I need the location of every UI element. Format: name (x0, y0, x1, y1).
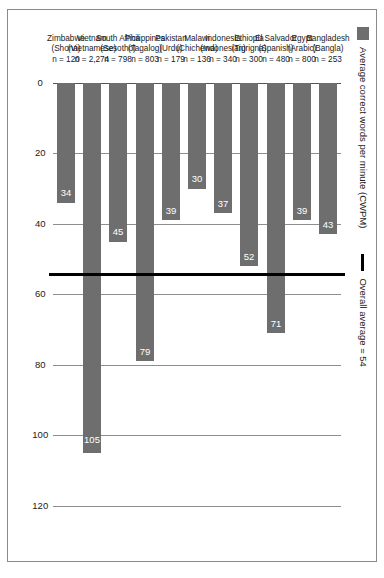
category-language: (Shona) (47, 44, 85, 54)
average-line-swatch-icon (362, 254, 365, 271)
bar-rect[interactable]: 71 (267, 83, 285, 333)
bar-row[interactable]: 45 (109, 83, 127, 541)
bar-series-swatch-icon (357, 27, 369, 40)
category-sample-size: n = 120 (47, 54, 85, 64)
bar-value-label: 43 (323, 219, 334, 229)
bar-value-label: 30 (192, 174, 203, 184)
plot-area: 43397152373039794510534 (53, 83, 341, 541)
tick-label-120: 120 (32, 501, 48, 511)
bar-rect[interactable]: 39 (162, 83, 180, 220)
bar-rect[interactable]: 37 (214, 83, 232, 213)
bar-rect[interactable]: 43 (319, 83, 337, 234)
legend-entry-bar-series: Average correct words per minute (CWPM) (357, 27, 369, 228)
chart-canvas: Average correct words per minute (CWPM) … (7, 9, 377, 562)
bar-value-label: 52 (244, 251, 255, 261)
bar-row[interactable]: 30 (188, 83, 206, 541)
legend-entry-average-line: Overall average = 54 (358, 254, 368, 366)
tick-label-0: 0 (38, 78, 43, 88)
tick-label-80: 80 (35, 360, 46, 370)
bar-row[interactable]: 43 (319, 83, 337, 541)
bar-value-label: 45 (113, 226, 124, 236)
tick-label-20: 20 (35, 149, 46, 159)
bar-row[interactable]: 39 (293, 83, 311, 541)
legend-label-average-line: Overall average = 54 (358, 278, 368, 366)
bar-row[interactable]: 105 (83, 83, 101, 541)
bar-value-label: 71 (270, 318, 281, 328)
bar-rect[interactable]: 79 (136, 83, 154, 361)
chart-page: Average correct words per minute (CWPM) … (0, 0, 384, 578)
tick-label-60: 60 (35, 290, 46, 300)
legend-label-bar-series: Average correct words per minute (CWPM) (358, 47, 368, 228)
bar-rect[interactable]: 34 (57, 83, 75, 203)
bar-row[interactable]: 52 (240, 83, 258, 541)
bar-rect[interactable]: 30 (188, 83, 206, 189)
bar-row[interactable]: 34 (57, 83, 75, 541)
bar-row[interactable]: 79 (136, 83, 154, 541)
overall-average-reference-line (49, 273, 345, 276)
category-label: Zimbabwe(Shona)n = 120 (47, 34, 85, 65)
bar-rect[interactable]: 52 (240, 83, 258, 266)
bar-value-label: 79 (139, 346, 150, 356)
bar-row[interactable]: 39 (162, 83, 180, 541)
bar-value-label: 39 (166, 205, 177, 215)
bar-value-label: 105 (84, 435, 100, 445)
bar-rect[interactable]: 105 (83, 83, 101, 453)
bar-rect[interactable]: 39 (293, 83, 311, 220)
bar-row[interactable]: 37 (214, 83, 232, 541)
chart-legend: Average correct words per minute (CWPM) … (357, 27, 369, 367)
rotated-chart-container: Average correct words per minute (CWPM) … (7, 9, 377, 562)
bar-row[interactable]: 71 (267, 83, 285, 541)
bar-value-label: 39 (296, 205, 307, 215)
tick-label-40: 40 (35, 219, 46, 229)
tick-label-100: 100 (32, 431, 48, 441)
bar-value-label: 34 (61, 188, 72, 198)
category-country: Zimbabwe (47, 34, 85, 44)
bar-rect[interactable]: 45 (109, 83, 127, 242)
bar-value-label: 37 (218, 198, 229, 208)
